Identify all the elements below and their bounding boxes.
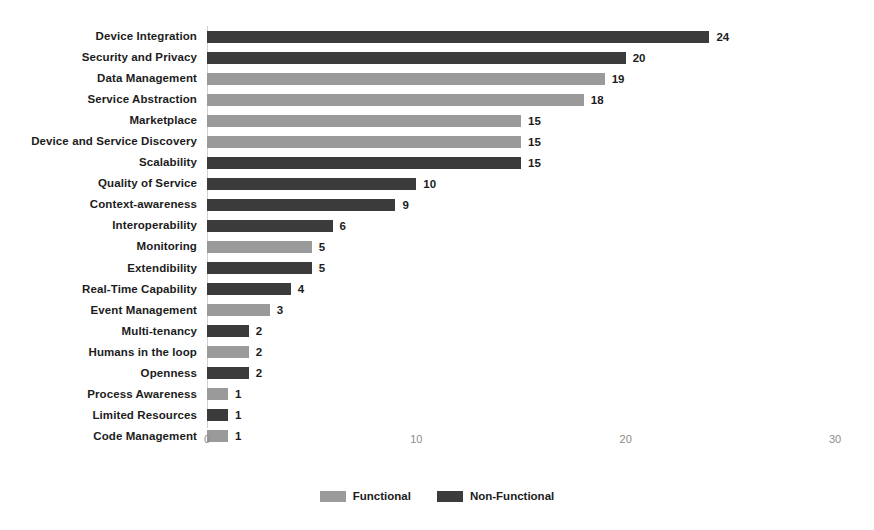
bar-nonfunctional[interactable] [207,283,291,295]
bar-category-label: Multi-tenancy [0,325,197,338]
bar-category-label: Data Management [0,72,197,85]
bar-nonfunctional[interactable] [207,220,333,232]
bar-row: Device Integration24 [0,26,874,47]
x-axis-tick-label: 10 [410,433,422,445]
bar-container: 24 [207,26,729,47]
bar-category-label: Device and Service Discovery [0,135,197,148]
bar-container: 18 [207,89,604,110]
bar-row: Data Management19 [0,68,874,89]
bar-nonfunctional[interactable] [207,178,416,190]
bar-functional[interactable] [207,73,605,85]
bar-value-label: 20 [633,52,646,64]
bar-nonfunctional[interactable] [207,262,312,274]
bar-row: Limited Resources1 [0,405,874,426]
bar-container: 15 [207,110,541,131]
bar-value-label: 9 [402,199,408,211]
bar-value-label: 5 [319,241,325,253]
bar-row: Real-Time Capability4 [0,279,874,300]
bar-category-label: Openness [0,367,197,380]
bar-value-label: 5 [319,262,325,274]
bar-container: 6 [207,215,346,236]
bar-container: 15 [207,131,541,152]
bar-row: Security and Privacy20 [0,47,874,68]
bar-functional[interactable] [207,388,228,400]
bar-value-label: 18 [591,94,604,106]
bar-functional[interactable] [207,346,249,358]
bar-row: Humans in the loop2 [0,342,874,363]
bar-container: 5 [207,236,325,257]
bar-category-label: Service Abstraction [0,93,197,106]
bar-value-label: 4 [298,283,304,295]
bar-nonfunctional[interactable] [207,199,395,211]
bar-container: 2 [207,342,262,363]
bar-row: Interoperability6 [0,215,874,236]
bar-container: 4 [207,279,304,300]
bar-row: Multi-tenancy2 [0,321,874,342]
x-axis-tick-label: 0 [204,433,210,445]
bar-category-label: Real-Time Capability [0,283,197,296]
chart-legend: FunctionalNon-Functional [0,490,874,502]
bar-functional[interactable] [207,136,521,148]
bar-category-label: Scalability [0,156,197,169]
bar-nonfunctional[interactable] [207,325,249,337]
bar-container: 15 [207,152,541,173]
bar-functional[interactable] [207,94,584,106]
bar-category-label: Marketplace [0,114,197,127]
x-axis-tick-label: 20 [620,433,632,445]
bar-container: 20 [207,47,645,68]
bar-row: Marketplace15 [0,110,874,131]
bar-container: 1 [207,405,241,426]
bar-category-label: Quality of Service [0,177,197,190]
legend-label: Functional [353,490,411,502]
bar-functional[interactable] [207,115,521,127]
bar-functional[interactable] [207,304,270,316]
bar-value-label: 10 [423,178,436,190]
bar-value-label: 1 [235,409,241,421]
bar-row: Quality of Service10 [0,173,874,194]
bar-category-label: Context-awareness [0,198,197,211]
bar-value-label: 19 [612,73,625,85]
bar-value-label: 2 [256,346,262,358]
bar-value-label: 6 [340,220,346,232]
bar-nonfunctional[interactable] [207,409,228,421]
bar-nonfunctional[interactable] [207,31,709,43]
bar-category-label: Extendibility [0,262,197,275]
bar-category-label: Interoperability [0,219,197,232]
bar-value-label: 15 [528,157,541,169]
bar-category-label: Event Management [0,304,197,317]
legend-label: Non-Functional [470,490,554,502]
bar-container: 3 [207,300,283,321]
bar-row: Monitoring5 [0,236,874,257]
bar-category-label: Monitoring [0,240,197,253]
bar-nonfunctional[interactable] [207,367,249,379]
bar-value-label: 24 [716,31,729,43]
legend-item[interactable]: Functional [320,490,411,502]
bar-row: Device and Service Discovery15 [0,131,874,152]
bar-rows-container: Device Integration24Security and Privacy… [0,26,874,426]
bar-row: Service Abstraction18 [0,89,874,110]
bar-row: Scalability15 [0,152,874,173]
bar-container: 2 [207,363,262,384]
bar-row: Openness2 [0,363,874,384]
bar-value-label: 2 [256,325,262,337]
bar-chart: Device Integration24Security and Privacy… [0,0,874,530]
bar-row: Event Management3 [0,300,874,321]
bar-value-label: 15 [528,115,541,127]
bar-category-label: Device Integration [0,30,197,43]
bar-nonfunctional[interactable] [207,52,626,64]
bar-container: 9 [207,194,409,215]
legend-swatch-icon [437,491,463,502]
x-axis-tick-label: 30 [829,433,841,445]
bar-functional[interactable] [207,241,312,253]
bar-container: 5 [207,258,325,279]
bar-nonfunctional[interactable] [207,157,521,169]
bar-category-label: Humans in the loop [0,346,197,359]
legend-swatch-icon [320,491,346,502]
legend-item[interactable]: Non-Functional [437,490,554,502]
bar-container: 1 [207,384,241,405]
bar-category-label: Process Awareness [0,388,197,401]
bar-value-label: 3 [277,304,283,316]
bar-container: 10 [207,173,436,194]
bar-category-label: Limited Resources [0,409,197,422]
bar-category-label: Security and Privacy [0,51,197,64]
